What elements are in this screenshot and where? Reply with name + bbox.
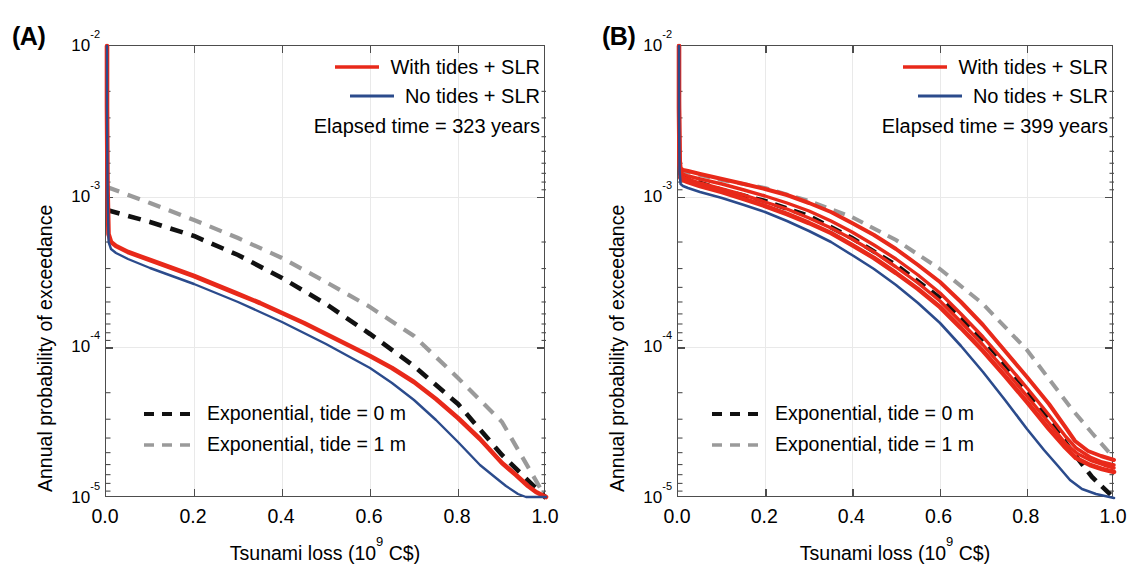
panel-a-legend-label-with-tides: With tides + SLR bbox=[390, 57, 540, 77]
panel-a-x-axis-title-sup: 9 bbox=[376, 534, 383, 549]
panel-a-ytick-label-1: 10-3 bbox=[48, 185, 100, 207]
panel-b: (B) Annual probability of exceedance 10-… bbox=[570, 0, 1137, 581]
panel-b-ytick-exp-0: -2 bbox=[662, 28, 672, 40]
panel-b-legend-item-exp-1m: Exponential, tide = 1 m bbox=[711, 429, 974, 460]
panel-a-ytick-label-0: 10-2 bbox=[48, 34, 100, 56]
panel-a-legend-item-no-tides: No tides + SLR bbox=[245, 81, 540, 110]
panel-b-ytick-label-1: 10-3 bbox=[620, 185, 672, 207]
panel-b-x-axis-title-prefix: Tsunami loss (10 bbox=[800, 542, 946, 564]
panel-a-legend-top: With tides + SLR No tides + SLR Elapsed … bbox=[245, 52, 540, 136]
figure-exceedance-curves: (A) Annual probability of exceedance 10-… bbox=[0, 0, 1137, 581]
panel-a-x-axis-title-suffix: C$) bbox=[383, 542, 420, 564]
panel-b-ytick-exp-2: -4 bbox=[662, 329, 672, 341]
panel-a-xtick-label-0: 0.0 bbox=[91, 505, 118, 528]
panel-a-ytick-exp-1: -3 bbox=[90, 179, 100, 191]
panel-b-legend-label-exp-0m: Exponential, tide = 0 m bbox=[775, 404, 974, 424]
panel-a-xtick-label-3: 0.6 bbox=[355, 505, 382, 528]
panel-b-xtick-label-4: 0.8 bbox=[1012, 505, 1039, 528]
panel-a-legend-item-with-tides: With tides + SLR bbox=[245, 52, 540, 81]
panel-b-x-axis-title-suffix: C$) bbox=[953, 542, 990, 564]
panel-b-legend-item-no-tides: No tides + SLR bbox=[813, 81, 1108, 110]
legend-line-solid-red-icon bbox=[334, 58, 380, 76]
panel-b-legend-item-exp-0m: Exponential, tide = 0 m bbox=[711, 398, 974, 429]
panel-b-ytick-exp-3: -5 bbox=[662, 480, 672, 492]
legend-line-solid-red-icon bbox=[902, 58, 948, 76]
panel-b-xtick-label-3: 0.6 bbox=[925, 505, 952, 528]
panel-b-elapsed-time-note: Elapsed time = 399 years bbox=[813, 110, 1108, 136]
panel-b-ytick-exp-1: -3 bbox=[662, 179, 672, 191]
panel-b-ytick-label-0: 10-2 bbox=[620, 34, 672, 56]
panel-b-legend-label-no-tides: No tides + SLR bbox=[973, 86, 1108, 106]
panel-a-elapsed-time-note: Elapsed time = 323 years bbox=[245, 110, 540, 136]
legend-line-dashed-black-icon bbox=[711, 405, 763, 423]
panel-b-xtick-label-0: 0.0 bbox=[663, 505, 690, 528]
legend-line-dashed-black-icon bbox=[143, 405, 195, 423]
panel-b-x-axis-title: Tsunami loss (109 C$) bbox=[800, 540, 990, 565]
panel-a-ytick-exp-3: -5 bbox=[90, 480, 100, 492]
panel-b-legend-bottom: Exponential, tide = 0 m Exponential, tid… bbox=[711, 398, 974, 460]
panel-b-legend-label-exp-1m: Exponential, tide = 1 m bbox=[775, 435, 974, 455]
panel-a: (A) Annual probability of exceedance 10-… bbox=[0, 0, 570, 581]
panel-a-ytick-exp-2: -4 bbox=[90, 329, 100, 341]
panel-a-ytick-label-2: 10-4 bbox=[48, 336, 100, 358]
panel-b-legend-label-with-tides: With tides + SLR bbox=[958, 57, 1108, 77]
panel-b-xtick-label-2: 0.4 bbox=[838, 505, 865, 528]
panel-b-ytick-label-2: 10-4 bbox=[620, 336, 672, 358]
panel-b-xtick-label-1: 0.2 bbox=[751, 505, 778, 528]
panel-b-xtick-label-5: 1.0 bbox=[1099, 505, 1126, 528]
legend-line-dashed-gray-icon bbox=[711, 436, 763, 454]
panel-a-xtick-label-2: 0.4 bbox=[267, 505, 294, 528]
panel-b-legend-top: With tides + SLR No tides + SLR Elapsed … bbox=[813, 52, 1108, 136]
panel-a-xtick-label-5: 1.0 bbox=[531, 505, 558, 528]
panel-a-x-axis-title-prefix: Tsunami loss (10 bbox=[230, 542, 376, 564]
panel-b-legend-item-with-tides: With tides + SLR bbox=[813, 52, 1108, 81]
panel-a-ytick-exp-0: -2 bbox=[90, 28, 100, 40]
panel-a-legend-label-exp-0m: Exponential, tide = 0 m bbox=[207, 404, 406, 424]
panel-a-legend-label-no-tides: No tides + SLR bbox=[405, 86, 540, 106]
panel-a-legend-item-exp-1m: Exponential, tide = 1 m bbox=[143, 429, 406, 460]
legend-line-solid-blue-icon bbox=[917, 87, 963, 105]
panel-a-legend-bottom: Exponential, tide = 0 m Exponential, tid… bbox=[143, 398, 406, 460]
panel-a-legend-item-exp-0m: Exponential, tide = 0 m bbox=[143, 398, 406, 429]
panel-a-letter: (A) bbox=[12, 22, 45, 51]
panel-a-x-axis-title: Tsunami loss (109 C$) bbox=[230, 540, 420, 565]
panel-a-legend-label-exp-1m: Exponential, tide = 1 m bbox=[207, 435, 406, 455]
legend-line-dashed-gray-icon bbox=[143, 436, 195, 454]
panel-a-xtick-label-4: 0.8 bbox=[443, 505, 470, 528]
legend-line-solid-blue-icon bbox=[349, 87, 395, 105]
panel-b-x-axis-title-sup: 9 bbox=[946, 534, 953, 549]
panel-a-xtick-label-1: 0.2 bbox=[179, 505, 206, 528]
